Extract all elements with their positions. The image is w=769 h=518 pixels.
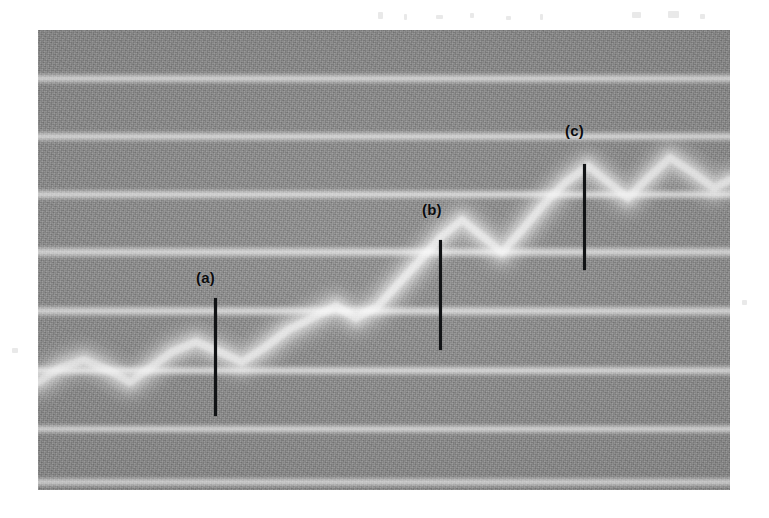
grayscale-figure-panel: (a)(b)(c) — [38, 30, 730, 490]
scan-speck — [436, 15, 443, 19]
scan-speck — [632, 12, 641, 18]
scan-speck — [470, 13, 474, 18]
scan-speck — [378, 12, 383, 19]
scan-speck — [404, 14, 407, 20]
scan-speck — [668, 11, 679, 18]
marker-label-c: (c) — [565, 123, 584, 138]
marker-line-c — [583, 164, 586, 270]
marker-line-a — [214, 298, 217, 416]
scan-speck — [12, 348, 18, 353]
scan-speck — [540, 14, 543, 20]
scan-speck — [742, 300, 747, 305]
marker-label-b: (b) — [422, 202, 442, 217]
marker-label-a: (a) — [196, 270, 215, 285]
scan-speck — [506, 16, 511, 20]
figure-page: (a)(b)(c) — [0, 0, 769, 518]
film-grain-texture — [38, 30, 730, 490]
scan-speck — [700, 14, 705, 19]
marker-line-b — [439, 240, 442, 350]
